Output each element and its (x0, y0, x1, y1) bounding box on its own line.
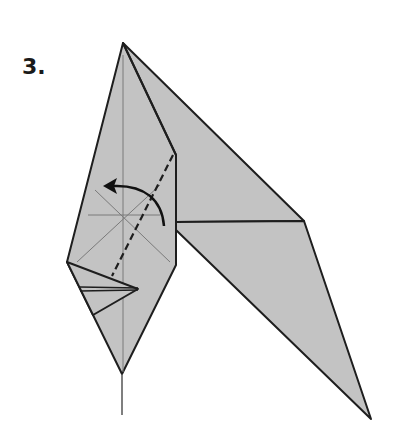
right-wing-lower (176, 221, 371, 419)
flap-inner-line-1 (80, 287, 138, 288)
flap-inner-line-2 (80, 290, 138, 291)
origami-diagram (0, 0, 397, 434)
